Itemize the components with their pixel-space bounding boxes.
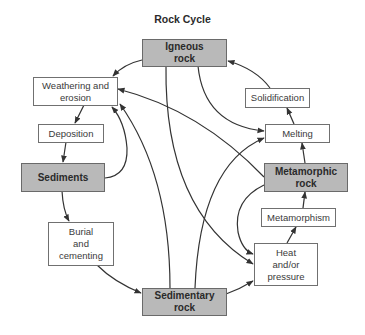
arrow-sedimentary-to-weathering bbox=[120, 104, 170, 288]
node-metamorphism: Metamorphism bbox=[261, 208, 336, 227]
node-igneous-rock: Igneous rock bbox=[142, 39, 227, 67]
arrow-igneous-to-weathering bbox=[113, 60, 142, 76]
arrow-weathering-to-deposition bbox=[75, 105, 84, 123]
node-sedimentary-rock: Sedimentary rock bbox=[142, 288, 227, 316]
arrow-melting-to-solidification bbox=[287, 108, 294, 124]
arrow-metamorphic-to-melting bbox=[302, 143, 305, 163]
node-burial-cementing: Burial and cementing bbox=[48, 222, 114, 266]
arrow-sedimentary-to-heat bbox=[226, 281, 253, 294]
arrow-heat-to-metamorphism bbox=[287, 227, 296, 243]
node-solidification: Solidification bbox=[245, 88, 310, 108]
arrow-burial-to-sedimentary bbox=[97, 265, 141, 293]
diagram-title: Rock Cycle bbox=[0, 13, 365, 25]
node-weathering-erosion: Weathering and erosion bbox=[33, 77, 118, 106]
node-heat-pressure: Heat and/or pressure bbox=[254, 243, 318, 286]
node-deposition: Deposition bbox=[38, 124, 104, 143]
arrow-deposition-to-sediments bbox=[63, 142, 66, 162]
arrow-sediments-to-weathering bbox=[105, 107, 127, 178]
arrow-sediments-to-burial bbox=[62, 191, 69, 221]
arrow-solidification-to-igneous bbox=[228, 61, 270, 88]
node-melting: Melting bbox=[265, 124, 330, 143]
node-metamorphic-rock: Metamorphic rock bbox=[264, 163, 348, 192]
arrow-metamorphic-to-weathering bbox=[118, 89, 264, 177]
node-sediments: Sediments bbox=[21, 163, 105, 192]
arrow-metamorphism-to-metamorphic bbox=[303, 192, 305, 208]
arrow-igneous-to-heat bbox=[166, 66, 253, 264]
